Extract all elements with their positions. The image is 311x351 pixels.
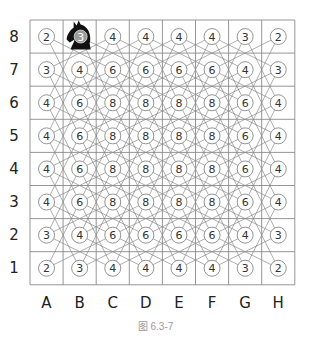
cell-e5: 8 <box>171 128 187 144</box>
cell-e6: 8 <box>171 95 187 111</box>
move-count: 8 <box>142 163 149 176</box>
move-count: 6 <box>109 229 116 242</box>
move-count: 6 <box>76 163 83 176</box>
cell-g4: 6 <box>237 161 253 177</box>
move-count: 8 <box>109 130 116 143</box>
cell-a1: 2 <box>39 260 55 276</box>
cell-f5: 8 <box>204 128 220 144</box>
move-count: 6 <box>142 64 149 77</box>
cell-g8: 3 <box>237 29 253 45</box>
cell-g6: 6 <box>237 95 253 111</box>
cell-a7: 3 <box>39 62 55 78</box>
move-count: 4 <box>43 97 50 110</box>
move-count: 3 <box>275 229 282 242</box>
cell-a8: 2 <box>39 29 55 45</box>
figure-caption: 图 6.3-7 <box>0 318 311 333</box>
cell-c8: 4 <box>105 29 121 45</box>
cell-d5: 8 <box>138 128 154 144</box>
move-count: 4 <box>242 229 249 242</box>
file-label: B <box>63 294 96 312</box>
move-count: 6 <box>76 130 83 143</box>
cell-d1: 4 <box>138 260 154 276</box>
move-count: 8 <box>209 130 216 143</box>
cell-h5: 4 <box>270 128 286 144</box>
move-count: 4 <box>209 31 216 44</box>
move-count: 6 <box>109 64 116 77</box>
cell-c6: 8 <box>105 95 121 111</box>
move-count: 6 <box>209 64 216 77</box>
cell-d6: 8 <box>138 95 154 111</box>
cell-c4: 8 <box>105 161 121 177</box>
file-label: C <box>96 294 129 312</box>
rank-label: 7 <box>4 61 24 79</box>
cell-f6: 8 <box>204 95 220 111</box>
move-count: 4 <box>275 97 282 110</box>
cell-b3: 6 <box>72 194 88 210</box>
move-count: 8 <box>142 97 149 110</box>
move-count: 8 <box>142 130 149 143</box>
cell-g1: 3 <box>237 260 253 276</box>
move-count: 4 <box>275 196 282 209</box>
file-label: A <box>30 294 63 312</box>
cell-h8: 2 <box>270 29 286 45</box>
cell-d2: 6 <box>138 227 154 243</box>
cell-e4: 8 <box>171 161 187 177</box>
move-count: 4 <box>275 163 282 176</box>
cell-a5: 4 <box>39 128 55 144</box>
move-count: 4 <box>43 163 50 176</box>
cell-f2: 6 <box>204 227 220 243</box>
rank-label: 8 <box>4 28 24 46</box>
move-count: 8 <box>209 163 216 176</box>
move-count: 4 <box>142 31 149 44</box>
board-grid <box>30 20 295 285</box>
file-label: G <box>229 294 262 312</box>
move-count: 8 <box>109 163 116 176</box>
file-label: E <box>162 294 195 312</box>
move-count: 4 <box>175 262 182 275</box>
move-count: 6 <box>242 97 249 110</box>
file-label: F <box>196 294 229 312</box>
cell-f1: 4 <box>204 260 220 276</box>
move-count: 8 <box>142 196 149 209</box>
cell-a4: 4 <box>39 161 55 177</box>
move-count: 8 <box>109 196 116 209</box>
move-count: 4 <box>76 64 83 77</box>
cell-b2: 4 <box>72 227 88 243</box>
cell-e7: 6 <box>171 62 187 78</box>
cell-f7: 6 <box>204 62 220 78</box>
cell-c7: 6 <box>105 62 121 78</box>
move-count: 8 <box>175 130 182 143</box>
move-count: 3 <box>242 262 249 275</box>
move-count: 2 <box>275 262 282 275</box>
cell-d7: 6 <box>138 62 154 78</box>
move-count: 6 <box>175 64 182 77</box>
move-count: 6 <box>209 229 216 242</box>
move-count: 6 <box>242 196 249 209</box>
move-count: 8 <box>175 97 182 110</box>
cell-h1: 2 <box>270 260 286 276</box>
rank-label: 6 <box>4 94 24 112</box>
move-count: 4 <box>109 262 116 275</box>
cell-e2: 6 <box>171 227 187 243</box>
cell-f3: 8 <box>204 194 220 210</box>
cell-a3: 4 <box>39 194 55 210</box>
cell-c3: 8 <box>105 194 121 210</box>
rank-label: 2 <box>4 226 24 244</box>
cell-c5: 8 <box>105 128 121 144</box>
move-count: 4 <box>43 196 50 209</box>
cell-h4: 4 <box>270 161 286 177</box>
cell-g2: 4 <box>237 227 253 243</box>
cell-b5: 6 <box>72 128 88 144</box>
cell-b6: 6 <box>72 95 88 111</box>
move-count: 3 <box>76 262 83 275</box>
move-count: 4 <box>275 130 282 143</box>
move-count: 4 <box>175 31 182 44</box>
cell-c1: 4 <box>105 260 121 276</box>
move-count: 4 <box>142 262 149 275</box>
knight-icon: 3 <box>67 21 91 50</box>
move-count: 4 <box>109 31 116 44</box>
cell-b4: 6 <box>72 161 88 177</box>
move-count: 8 <box>175 196 182 209</box>
file-label: H <box>262 294 295 312</box>
move-count: 6 <box>142 229 149 242</box>
